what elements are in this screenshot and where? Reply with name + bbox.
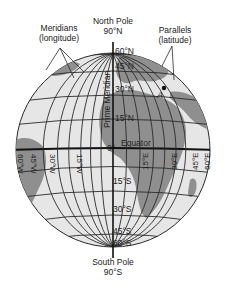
lon-label-30e: 30°E: [170, 153, 179, 170]
lon-label-15w: 15°W: [75, 154, 84, 174]
lat-label-30s: 30°S: [113, 204, 132, 214]
meridians-subtext: (longitude): [28, 33, 90, 43]
south-pole-text: South Pole: [83, 257, 143, 267]
south-pole-label: South Pole 90°S: [83, 257, 143, 277]
prime-meridian-label: Prime Meridian: [102, 71, 112, 128]
meridians-label: Meridians (longitude): [28, 23, 90, 43]
equator-label: Equator: [121, 138, 151, 148]
lon-label-45e: 45°E: [191, 153, 200, 170]
lat-label-45s: 45°S: [113, 226, 132, 236]
lon-label-30w: 30°W: [48, 154, 57, 174]
lat-label-60n: 60°N: [115, 46, 134, 56]
south-pole-degree: 90°S: [83, 267, 143, 277]
lat-label-15s: 15°S: [113, 176, 132, 186]
lon-label-45w: 45°W: [29, 154, 38, 174]
point-a-label: A: [157, 90, 163, 100]
lon-label-60w: 60°W: [16, 154, 25, 174]
lon-label-60e: 60°E: [203, 153, 212, 170]
parallels-subtext: (latitude): [150, 35, 200, 45]
lat-label-30n: 30°N: [115, 84, 134, 94]
meridians-text: Meridians: [28, 23, 90, 33]
globe-diagram: Prime Meridian 60°W 45°W 30°W 15°W 15°E …: [0, 0, 227, 292]
north-pole-degree: 90°N: [83, 26, 143, 36]
lon-label-15e: 15°E: [141, 153, 150, 170]
lat-label-45n: 45°N: [115, 61, 134, 71]
north-pole-label: North Pole 90°N: [83, 16, 143, 36]
parallels-label: Parallels (latitude): [150, 25, 200, 45]
zero-degree-label: 0°: [107, 143, 115, 153]
lat-label-60s: 60°S: [113, 238, 132, 248]
lat-label-15n: 15°N: [115, 113, 134, 123]
parallels-text: Parallels: [150, 25, 200, 35]
north-pole-text: North Pole: [83, 16, 143, 26]
